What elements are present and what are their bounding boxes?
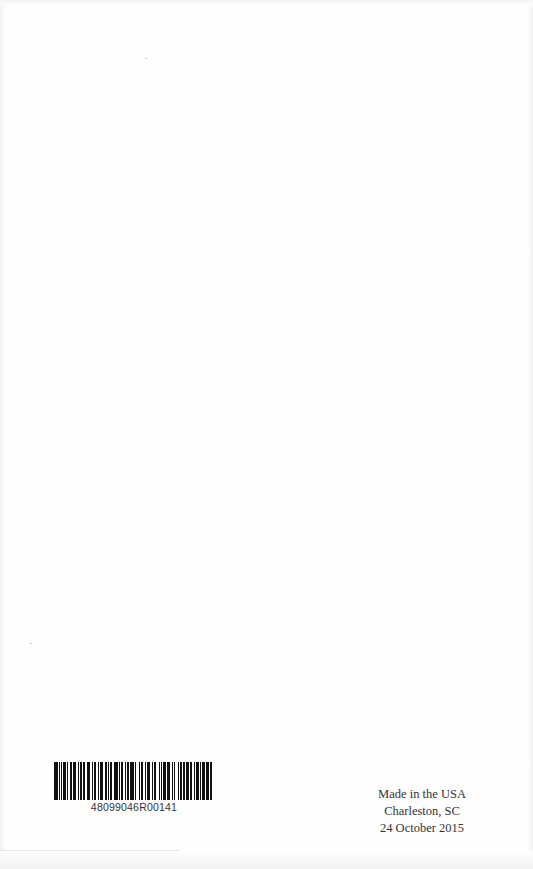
print-imprint: Made in the USA Charleston, SC 24 Octobe… (352, 786, 492, 837)
barcode-image (54, 762, 214, 800)
scan-speck (30, 643, 32, 644)
page-edge-bottom (0, 851, 533, 869)
page-edge-left (0, 0, 6, 869)
imprint-location: Charleston, SC (352, 803, 492, 820)
imprint-origin: Made in the USA (352, 786, 492, 803)
page-edge-right (528, 0, 533, 869)
page-edge-top (0, 0, 533, 5)
barcode-number: 48099046R00141 (54, 801, 214, 813)
back-page: 48099046R00141 Made in the USA Charlesto… (0, 0, 533, 869)
imprint-date: 24 October 2015 (352, 820, 492, 837)
page-crease (0, 850, 180, 851)
scan-speck (145, 58, 147, 59)
barcode-space (212, 762, 213, 800)
barcode-block: 48099046R00141 (54, 762, 214, 813)
